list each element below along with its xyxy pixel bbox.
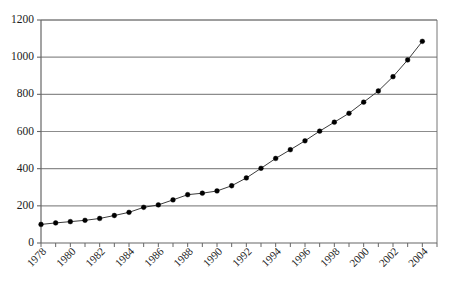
x-tick-label-1998: 1998: [318, 245, 342, 269]
y-tick-label-0: 0: [28, 236, 34, 248]
data-point: [288, 147, 293, 152]
y-tick-label-400: 400: [17, 162, 35, 174]
x-tick-label-1980: 1980: [54, 245, 78, 269]
data-point: [273, 156, 278, 161]
x-tick-label-group-1978: 1978: [24, 245, 48, 269]
y-tick-label-600: 600: [17, 125, 35, 137]
x-tick-label-1982: 1982: [83, 245, 107, 269]
data-point: [185, 192, 190, 197]
x-tick-label-2002: 2002: [376, 245, 400, 269]
data-point: [405, 58, 410, 63]
data-point: [317, 129, 322, 134]
x-tick-label-2000: 2000: [347, 245, 371, 269]
x-axis-tick-marks: [41, 243, 437, 247]
data-point: [39, 222, 44, 227]
x-tick-label-group-2000: 2000: [347, 245, 371, 269]
y-tick-label-1200: 1200: [11, 13, 34, 25]
data-point: [156, 203, 161, 208]
data-point: [97, 216, 102, 221]
data-point: [244, 176, 249, 181]
x-tick-label-group-1990: 1990: [200, 245, 224, 269]
data-point: [303, 138, 308, 143]
x-tick-label-group-1992: 1992: [230, 245, 254, 269]
line-chart: 020040060080010001200 197819801982198419…: [0, 0, 455, 284]
data-point: [215, 189, 220, 194]
data-point: [391, 74, 396, 79]
y-axis-tick-labels: 020040060080010001200: [11, 13, 34, 248]
data-point: [68, 219, 73, 224]
x-tick-label-1984: 1984: [112, 245, 136, 269]
x-tick-label-group-2002: 2002: [376, 245, 400, 269]
data-point: [83, 218, 88, 223]
x-tick-label-1996: 1996: [288, 245, 312, 269]
x-tick-label-group-1980: 1980: [54, 245, 78, 269]
x-tick-label-group-1998: 1998: [318, 245, 342, 269]
x-tick-label-group-1982: 1982: [83, 245, 107, 269]
data-point: [259, 166, 264, 171]
x-tick-label-1992: 1992: [230, 245, 254, 269]
data-point: [361, 100, 366, 105]
x-tick-label-1986: 1986: [142, 245, 166, 269]
data-point: [376, 89, 381, 94]
y-tick-label-200: 200: [17, 199, 35, 211]
x-tick-label-group-1996: 1996: [288, 245, 312, 269]
x-tick-label-group-2004: 2004: [406, 245, 430, 269]
y-tick-label-1000: 1000: [11, 50, 34, 62]
data-point: [127, 210, 132, 215]
x-tick-label-group-1986: 1986: [142, 245, 166, 269]
data-point: [420, 39, 425, 44]
data-point: [112, 213, 117, 218]
x-tick-label-1988: 1988: [171, 245, 195, 269]
x-tick-label-group-1994: 1994: [259, 245, 283, 269]
data-point: [229, 183, 234, 188]
data-point: [141, 205, 146, 210]
x-tick-label-group-1988: 1988: [171, 245, 195, 269]
chart-container: 020040060080010001200 197819801982198419…: [0, 0, 455, 284]
x-tick-label-1990: 1990: [200, 245, 224, 269]
x-tick-label-2004: 2004: [406, 245, 430, 269]
data-point: [200, 191, 205, 196]
x-tick-label-1978: 1978: [24, 245, 48, 269]
data-point: [347, 111, 352, 116]
data-point: [53, 221, 58, 226]
y-tick-label-800: 800: [17, 87, 35, 99]
x-tick-label-group-1984: 1984: [112, 245, 136, 269]
x-tick-label-1994: 1994: [259, 245, 283, 269]
x-axis-tick-labels: 1978198019821984198619881990199219941996…: [24, 245, 430, 269]
data-point: [332, 120, 337, 125]
data-point: [171, 197, 176, 202]
